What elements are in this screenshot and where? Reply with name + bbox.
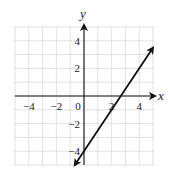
coordinate-plane: −4−202442−2−4 x y <box>0 0 171 178</box>
y-tick-label: 4 <box>75 35 81 47</box>
y-tick-label: −4 <box>68 145 80 157</box>
y-tick-label: −2 <box>68 118 80 130</box>
y-tick-label: 2 <box>75 62 81 74</box>
x-tick-label: 0 <box>75 100 81 112</box>
x-tick-label: −2 <box>51 100 63 112</box>
y-axis-label: y <box>78 6 86 21</box>
axes <box>15 25 155 165</box>
x-axis-label: x <box>157 88 164 103</box>
x-tick-label: −4 <box>23 100 35 112</box>
x-tick-label: 4 <box>136 100 142 112</box>
